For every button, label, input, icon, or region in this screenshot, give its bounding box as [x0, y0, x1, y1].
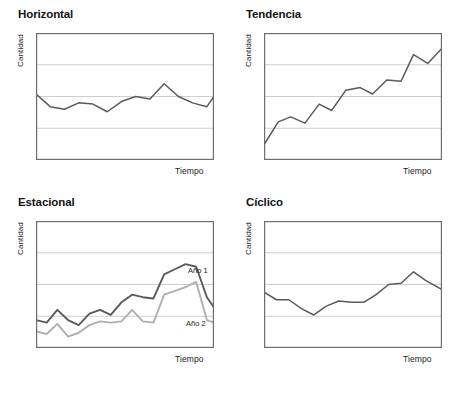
y-axis-label-tendencia: Cantidad [244, 21, 253, 81]
y-axis-label-horizontal: Cantidad [16, 21, 25, 81]
series-line [36, 282, 214, 337]
panel-ciclico: Cíclico Cantidad Tiempo [228, 188, 456, 386]
plot-area-estacional [36, 221, 214, 348]
gridlines-tendencia [265, 65, 441, 129]
plot-area-tendencia [264, 33, 442, 160]
plot-area-ciclico [264, 221, 442, 348]
panel-horizontal: Horizontal Cantidad Tiempo [0, 0, 228, 198]
series-annotation-ano-2: Año 2 [186, 319, 206, 328]
series-line [264, 272, 442, 315]
gridlines-estacional [37, 253, 213, 317]
time-series-patterns-figure: Horizontal Cantidad Tiempo Tendencia Can… [0, 0, 456, 396]
panel-tendencia: Tendencia Cantidad Tiempo [228, 0, 456, 198]
panel-title-horizontal: Horizontal [18, 8, 73, 20]
plot-area-horizontal [36, 33, 214, 160]
series-line [36, 84, 214, 112]
panel-title-tendencia: Tendencia [246, 8, 301, 20]
x-axis-label-horizontal: Tiempo [175, 166, 204, 176]
series-group-ciclico [264, 272, 442, 315]
gridlines-ciclico [265, 253, 441, 317]
series-annotation-ano-1: Año 1 [188, 266, 208, 275]
panel-title-ciclico: Cíclico [246, 196, 283, 208]
series-group-horizontal [36, 84, 214, 112]
y-axis-label-ciclico: Cantidad [244, 209, 253, 269]
x-axis-label-tendencia: Tiempo [403, 166, 432, 176]
x-axis-label-estacional: Tiempo [175, 354, 204, 364]
panel-title-estacional: Estacional [18, 196, 75, 208]
x-axis-label-ciclico: Tiempo [403, 354, 432, 364]
gridlines-horizontal [37, 65, 213, 129]
panel-estacional: Estacional Cantidad Año 1 Año 2 Tiempo [0, 188, 228, 386]
y-axis-label-estacional: Cantidad [16, 209, 25, 269]
